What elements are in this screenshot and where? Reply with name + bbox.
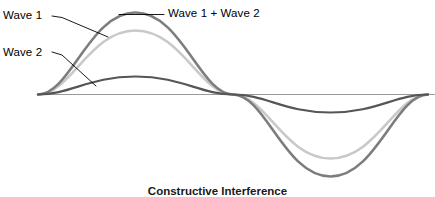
wave2-label: Wave 2 [3,47,42,59]
wave-sum-label: Wave 1 + Wave 2 [168,8,260,20]
wave1-leader-line [52,16,108,37]
wave-plot-svg [0,0,435,197]
figure-caption: Constructive Interference [0,186,435,197]
wave2-leader-line [52,52,96,86]
wave1-label: Wave 1 [3,10,42,22]
wave-interference-figure: Wave 1 Wave 2 Wave 1 + Wave 2 Constructi… [0,0,435,197]
